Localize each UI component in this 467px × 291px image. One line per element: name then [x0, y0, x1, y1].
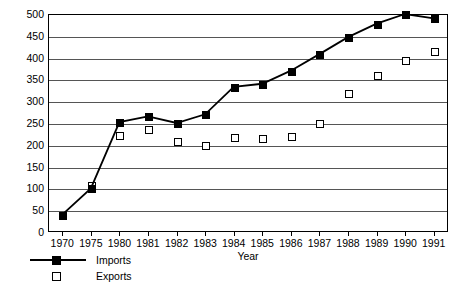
legend-label-imports: Imports — [96, 254, 131, 266]
gridline — [49, 189, 447, 190]
x-tick-label: 1970 — [51, 238, 74, 249]
gridline — [49, 102, 447, 103]
data-point-imports — [402, 11, 410, 19]
x-tick-label: 1984 — [222, 238, 245, 249]
y-tick-label: 300 — [4, 96, 44, 106]
gridline — [49, 124, 447, 125]
data-point-exports — [288, 133, 296, 141]
y-tick-label: 150 — [4, 162, 44, 172]
data-point-exports — [431, 48, 439, 56]
data-point-imports — [116, 119, 124, 127]
data-point-exports — [345, 90, 353, 98]
data-point-exports — [202, 142, 210, 150]
x-tick — [319, 232, 320, 236]
x-tick — [148, 232, 149, 236]
data-point-exports — [116, 132, 124, 140]
legend-item-exports: Exports — [26, 268, 132, 284]
x-tick-label: 1987 — [308, 238, 331, 249]
gridline — [49, 80, 447, 81]
y-tick-label: 50 — [4, 205, 44, 215]
chart-container: 050100150200250300350400450500 197019751… — [0, 0, 467, 291]
x-tick — [177, 232, 178, 236]
y-tick-label: 200 — [4, 140, 44, 150]
data-point-imports — [316, 51, 324, 59]
data-point-imports — [174, 120, 182, 128]
x-tick-label: 1989 — [365, 238, 388, 249]
data-point-exports — [316, 120, 324, 128]
data-point-imports — [231, 84, 239, 92]
plot-area — [48, 14, 448, 232]
chart-legend: Imports Exports — [26, 252, 132, 284]
x-tick — [348, 232, 349, 236]
y-tick-label: 400 — [4, 53, 44, 63]
x-tick — [291, 232, 292, 236]
x-tick-label: 1982 — [165, 238, 188, 249]
x-tick-label: 1986 — [279, 238, 302, 249]
data-point-imports — [431, 15, 439, 23]
x-tick — [262, 232, 263, 236]
legend-swatch-exports — [26, 269, 90, 283]
x-tick — [377, 232, 378, 236]
data-point-imports — [59, 212, 67, 220]
data-point-exports — [231, 134, 239, 142]
y-tick-label: 500 — [4, 9, 44, 19]
y-tick-label: 100 — [4, 183, 44, 193]
x-tick-label: 1990 — [393, 238, 416, 249]
y-tick-label: 450 — [4, 31, 44, 41]
data-point-exports — [402, 57, 410, 65]
x-tick-label: 1983 — [193, 238, 216, 249]
gridline — [49, 168, 447, 169]
x-tick — [91, 232, 92, 236]
x-tick — [62, 232, 63, 236]
y-axis: 050100150200250300350400450500 — [0, 0, 44, 291]
gridline — [49, 37, 447, 38]
gridline — [49, 59, 447, 60]
x-tick — [234, 232, 235, 236]
y-tick-label: 0 — [4, 227, 44, 237]
gridline — [49, 146, 447, 147]
data-point-exports — [259, 135, 267, 143]
x-tick — [119, 232, 120, 236]
y-tick-label: 350 — [4, 74, 44, 84]
data-point-imports — [145, 113, 153, 121]
data-point-imports — [259, 81, 267, 89]
x-tick-label: 1991 — [422, 238, 445, 249]
legend-swatch-imports — [26, 253, 90, 267]
data-point-imports — [202, 111, 210, 119]
legend-item-imports: Imports — [26, 252, 132, 268]
x-tick-label: 1988 — [336, 238, 359, 249]
data-point-imports — [374, 21, 382, 29]
data-point-imports — [288, 68, 296, 76]
x-tick-label: 1975 — [79, 238, 102, 249]
x-tick-label: 1980 — [108, 238, 131, 249]
x-tick-label: 1985 — [251, 238, 274, 249]
data-point-exports — [374, 72, 382, 80]
data-point-exports — [174, 138, 182, 146]
x-tick — [434, 232, 435, 236]
y-tick-label: 250 — [4, 118, 44, 128]
data-point-imports — [345, 34, 353, 42]
data-point-exports — [145, 126, 153, 134]
gridline — [49, 211, 447, 212]
x-tick — [205, 232, 206, 236]
x-tick-label: 1981 — [136, 238, 159, 249]
data-point-imports — [88, 185, 96, 193]
legend-label-exports: Exports — [96, 270, 132, 282]
x-tick — [405, 232, 406, 236]
